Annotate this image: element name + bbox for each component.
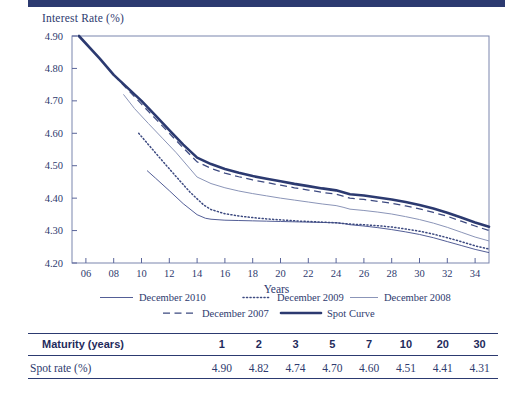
- table-head: Maturity (years) 12357102030: [28, 334, 498, 356]
- y-tick-label-4.30: 4.30: [45, 225, 63, 236]
- x-tick-label-28: 28: [386, 268, 397, 279]
- table-header-maturity: Maturity (years): [28, 334, 203, 356]
- y-tick-label-4.70: 4.70: [45, 95, 63, 106]
- table-header-maturity-2: 2: [240, 334, 277, 356]
- table-cell-spot-rate-5: 4.70: [314, 356, 351, 379]
- x-tick-label-22: 22: [303, 268, 314, 279]
- x-tick-label-30: 30: [414, 268, 425, 279]
- table-cell-spot-rate-3: 4.74: [277, 356, 314, 379]
- y-tick-label-4.40: 4.40: [45, 193, 63, 204]
- table-header-maturity-20: 20: [424, 334, 461, 356]
- legend-label-december-2008: December 2008: [384, 292, 451, 303]
- x-tick-label-08: 08: [108, 268, 119, 279]
- x-tick-label-14: 14: [192, 268, 203, 279]
- legend-label-december-2009: December 2009: [277, 292, 344, 303]
- y-tick-label-4.20: 4.20: [45, 258, 63, 269]
- y-tick-label-4.90: 4.90: [45, 31, 63, 42]
- series-line-spot-curve: [79, 36, 489, 227]
- x-tick-label-18: 18: [247, 268, 258, 279]
- table-cell-spot-rate-2: 4.82: [240, 356, 277, 379]
- line-chart-svg: 4.204.304.404.504.604.704.804.9006081012…: [0, 0, 521, 335]
- table-row-label: Spot rate (%): [28, 356, 203, 379]
- series-line-december-2008: [123, 94, 489, 241]
- x-tick-label-32: 32: [442, 268, 453, 279]
- table-cell-spot-rate-20: 4.41: [424, 356, 461, 379]
- table-header-maturity-5: 5: [314, 334, 351, 356]
- table-header-maturity-1: 1: [203, 334, 240, 356]
- table-cell-spot-rate-30: 4.31: [461, 356, 498, 379]
- x-tick-label-16: 16: [220, 268, 231, 279]
- table-header-row: Maturity (years) 12357102030: [28, 334, 498, 356]
- y-tick-label-4.60: 4.60: [45, 128, 63, 139]
- table-body: Spot rate (%) 4.904.824.744.704.604.514.…: [28, 356, 498, 379]
- spot-rate-table: Maturity (years) 12357102030 Spot rate (…: [28, 333, 498, 379]
- table-header-maturity-10: 10: [388, 334, 425, 356]
- legend-label-december-2007: December 2007: [202, 308, 269, 319]
- x-tick-label-20: 20: [275, 268, 286, 279]
- table-header-maturity-30: 30: [461, 334, 498, 356]
- spot-rate-table-wrapper: Maturity (years) 12357102030 Spot rate (…: [28, 333, 498, 379]
- chart-legend: December 2010December 2009December 2008D…: [100, 292, 451, 319]
- y-tick-label-4.80: 4.80: [45, 63, 63, 74]
- x-tick-label-10: 10: [136, 268, 147, 279]
- legend-label-spot-curve: Spot Curve: [327, 308, 375, 319]
- y-tick-label-4.50: 4.50: [45, 160, 63, 171]
- series-line-december-2010: [147, 171, 489, 253]
- x-tick-label-34: 34: [470, 268, 481, 279]
- x-tick-label-06: 06: [81, 268, 92, 279]
- series-group: [79, 36, 489, 253]
- legend-label-december-2010: December 2010: [139, 292, 206, 303]
- table-header-maturity-7: 7: [351, 334, 388, 356]
- x-tick-label-26: 26: [359, 268, 370, 279]
- table-cell-spot-rate-7: 4.60: [351, 356, 388, 379]
- x-tick-label-24: 24: [331, 268, 342, 279]
- table-cell-spot-rate-1: 4.90: [203, 356, 240, 379]
- table-cell-spot-rate-10: 4.51: [388, 356, 425, 379]
- axes-group: [72, 36, 489, 263]
- table-header-maturity-3: 3: [277, 334, 314, 356]
- table-row: Spot rate (%) 4.904.824.744.704.604.514.…: [28, 356, 498, 379]
- x-tick-label-12: 12: [164, 268, 175, 279]
